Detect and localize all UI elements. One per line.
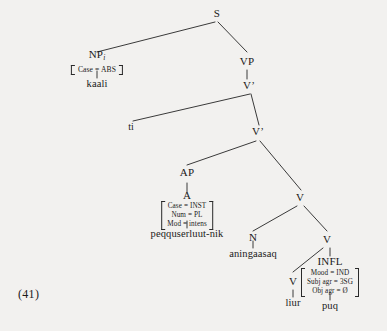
feature-row: Subj agr = 3SG [307,278,353,286]
terminal-liur: liur [286,298,301,309]
example-number: (41) [18,287,39,302]
bracket-right-a [209,201,213,230]
feature-rows-np: Case = ABS [75,65,119,75]
node-infl: INFL [317,256,342,267]
node-s: S [214,8,220,19]
node-np: NPi Case = ABS [71,49,123,78]
node-v-inner: V [323,234,331,245]
node-vbar-lower: V’ [252,126,264,137]
feature-row: Mood = IND [311,269,350,277]
node-n: N [249,232,257,243]
node-v-leaf: V [289,276,297,287]
node-np-text: NP [89,48,103,60]
feature-rows-a: Case = INST Num = PL Mod = intens [165,201,209,230]
node-trace: ti [128,122,134,132]
feature-row: Case = ABS [78,65,116,74]
feature-matrix-infl: Mood = IND Subj agr = 3SG Obj agr = Ø [301,268,359,300]
syntax-tree-figure: (41) S NPi Case = ABS kaali VP V’ ti V’ … [0,0,387,331]
node-a: A [183,190,191,201]
node-vp: VP [240,56,254,67]
node-vbar-upper: V’ [243,80,255,91]
feature-rows-infl: Mood = IND Subj agr = 3SG Obj agr = Ø [305,268,355,297]
bracket-right-np [119,65,123,75]
node-np-label: NPi [71,49,123,62]
node-v-mid: V [296,192,304,203]
terminal-aningaasaq: aningaasaq [229,249,277,260]
terminal-kaali: kaali [87,79,108,90]
node-np-index: i [103,53,105,62]
terminal-puq: puq [322,301,338,312]
node-trace-index: i [131,121,134,132]
terminal-peqquserluut-nik: peqquserluut-nik [151,229,224,240]
feature-matrix-np: Case = ABS [71,62,123,78]
bracket-right-infl [355,268,359,297]
feature-row: Mod = intens [167,220,207,228]
feature-row: Case = INST [168,202,207,210]
node-ap: AP [180,167,194,178]
feature-row: Num = PL [171,211,202,219]
feature-row: Obj agr = Ø [312,287,348,295]
